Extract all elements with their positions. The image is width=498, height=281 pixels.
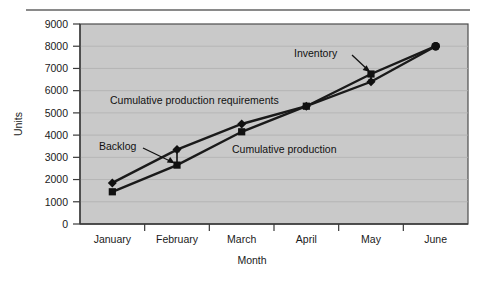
x-axis-title: Month <box>237 254 266 266</box>
y-tick-label-0: 0 <box>62 218 68 230</box>
y-axis-ticks <box>73 24 80 224</box>
annotation-label-cumulative-production: Cumulative production <box>232 143 337 155</box>
y-tick-label-8000: 8000 <box>45 40 69 52</box>
line-chart: 0 1000 2000 3000 4000 5000 6000 7000 800… <box>0 0 498 281</box>
y-tick-label-3000: 3000 <box>45 151 69 163</box>
y-tick-label-4000: 4000 <box>45 129 69 141</box>
annotation-label-inventory: Inventory <box>294 47 338 59</box>
y-tick-label-1000: 1000 <box>45 196 69 208</box>
x-tick-label-june: June <box>424 233 447 245</box>
x-axis-ticks <box>145 224 404 231</box>
annotation-label-backlog: Backlog <box>99 140 137 152</box>
x-tick-label-january: January <box>94 233 132 245</box>
x-tick-label-may: May <box>361 233 382 245</box>
x-tick-label-april: April <box>296 233 317 245</box>
y-tick-label-7000: 7000 <box>45 62 69 74</box>
annotation-label-cumulative-production-requirements: Cumulative production requirements <box>110 94 279 106</box>
y-tick-label-9000: 9000 <box>45 18 69 30</box>
x-tick-label-february: February <box>156 233 199 245</box>
y-axis-title: Units <box>12 112 24 136</box>
y-tick-label-2000: 2000 <box>45 173 69 185</box>
chart-figure: 0 1000 2000 3000 4000 5000 6000 7000 800… <box>0 0 498 281</box>
x-tick-label-march: March <box>227 233 256 245</box>
y-tick-label-5000: 5000 <box>45 107 69 119</box>
y-tick-label-6000: 6000 <box>45 84 69 96</box>
plot-area-background <box>80 24 468 224</box>
